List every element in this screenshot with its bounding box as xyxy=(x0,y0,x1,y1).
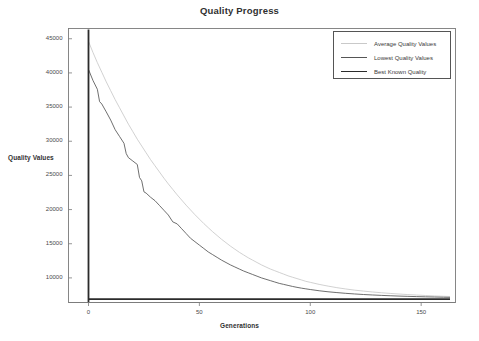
y-tick-label: 10000 xyxy=(23,274,63,280)
legend-swatch xyxy=(341,43,367,44)
legend-label: Lowest Quality Values xyxy=(374,55,433,61)
legend-swatch xyxy=(341,57,367,59)
legend-swatch xyxy=(341,71,367,73)
series-line xyxy=(89,41,451,296)
series-line xyxy=(89,70,451,298)
x-tick-label: 50 xyxy=(184,309,214,315)
y-tick-label: 30000 xyxy=(23,137,63,143)
y-tick-label: 25000 xyxy=(23,171,63,177)
legend-item: Best Known Quality xyxy=(334,65,452,78)
x-tick-label: 100 xyxy=(295,309,325,315)
data-series-group xyxy=(89,41,451,299)
legend-item: Average Quality Values xyxy=(334,37,452,50)
y-tick-label: 40000 xyxy=(23,69,63,75)
chart-legend: Average Quality ValuesLowest Quality Val… xyxy=(333,31,451,79)
y-tick-label: 45000 xyxy=(23,35,63,41)
x-tick-label: 150 xyxy=(406,309,436,315)
y-tick-label: 15000 xyxy=(23,240,63,246)
legend-label: Average Quality Values xyxy=(374,41,436,47)
y-tick-label: 20000 xyxy=(23,206,63,212)
legend-label: Best Known Quality xyxy=(374,69,426,75)
y-tick-label: 35000 xyxy=(23,103,63,109)
chart-container: Quality Progress Quality Values Generati… xyxy=(0,0,479,341)
x-tick-label: 0 xyxy=(74,309,104,315)
legend-item: Lowest Quality Values xyxy=(334,51,452,64)
